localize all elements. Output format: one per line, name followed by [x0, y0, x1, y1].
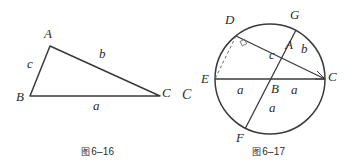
point-label-E: E [200, 71, 209, 86]
caption-text-left: 6–16 [91, 146, 114, 157]
segment-label-a-left-half: a [237, 82, 244, 97]
figure-6-17-group [215, 24, 325, 134]
figure-6-16-labels: A B C c b a [16, 26, 171, 113]
segment-label-a-lower: a [269, 100, 276, 115]
figure-canvas: A B C c b a D G A E B C F c b a a a C 图6… [0, 0, 352, 168]
dashed-segment-de [215, 36, 236, 79]
caption-text-right: 6–17 [262, 146, 285, 157]
side-label-a-left: a [93, 98, 100, 113]
point-label-D: D [224, 12, 235, 27]
segment-label-b-right: b [301, 41, 308, 56]
vertex-label-B-left: B [16, 89, 24, 104]
point-label-A-right: A [284, 37, 293, 52]
point-label-F: F [235, 130, 245, 145]
vertex-label-C-left: C [162, 85, 171, 100]
caption-figure-6-17: 图6–17 [252, 145, 285, 158]
triangle-abc-outline [30, 46, 160, 96]
geometry-drawing: A B C c b a D G A E B C F c b a a a C [0, 0, 352, 168]
figure-6-16-group [30, 46, 160, 96]
point-label-B-right: B [271, 81, 279, 96]
side-label-b-left: b [99, 46, 106, 61]
segment-label-c-right: c [269, 47, 275, 62]
point-label-G: G [290, 7, 300, 22]
vertex-label-A-left: A [43, 26, 52, 41]
caption-mark-left: 图 [81, 145, 90, 158]
stray-label-C: C [182, 87, 192, 102]
figure-6-17-labels: D G A E B C F c b a a a C [182, 7, 337, 145]
caption-mark-right: 图 [252, 145, 261, 158]
caption-figure-6-16: 图6–16 [81, 145, 114, 158]
point-label-C-right: C [328, 69, 337, 84]
segment-label-a-right-half: a [291, 82, 298, 97]
side-label-c-left: c [27, 56, 33, 71]
